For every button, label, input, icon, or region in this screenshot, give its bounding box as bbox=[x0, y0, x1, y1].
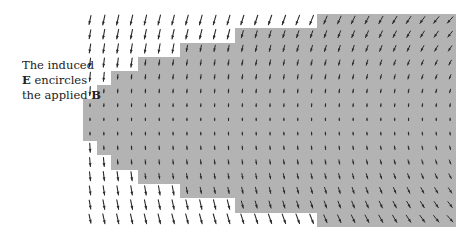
arrow-icon bbox=[268, 214, 271, 223]
arrow-icon bbox=[199, 29, 202, 38]
arrow-icon bbox=[200, 200, 203, 209]
arrow-icon bbox=[88, 30, 91, 39]
arrow-icon bbox=[227, 15, 230, 25]
arrow-icon bbox=[241, 15, 244, 25]
arrow-icon bbox=[130, 15, 133, 25]
arrow-icon bbox=[171, 15, 174, 25]
arrow-icon bbox=[102, 58, 105, 67]
arrow-icon bbox=[117, 200, 120, 210]
arrow-icon bbox=[158, 200, 161, 209]
arrow-icon bbox=[172, 186, 175, 195]
field-region-step bbox=[97, 85, 456, 99]
caption: The induced E encircles the applied B bbox=[22, 58, 86, 103]
arrow-icon bbox=[89, 186, 92, 195]
arrow-icon bbox=[199, 15, 202, 25]
applied-b-field-region bbox=[83, 14, 456, 227]
arrow-icon bbox=[186, 214, 189, 224]
arrow-icon bbox=[282, 15, 286, 24]
arrow-icon bbox=[116, 44, 119, 53]
arrow-icon bbox=[172, 200, 175, 209]
arrow-icon bbox=[199, 214, 202, 224]
arrow-icon bbox=[227, 214, 230, 224]
arrow-icon bbox=[213, 15, 216, 25]
arrow-icon bbox=[144, 29, 147, 39]
caption-line-3: the applied B bbox=[22, 88, 86, 103]
caption-line-2: E encircles bbox=[22, 73, 86, 88]
arrow-icon bbox=[88, 72, 91, 81]
arrow-icon bbox=[116, 15, 119, 25]
arrow-icon bbox=[116, 172, 119, 181]
arrow-icon bbox=[186, 200, 189, 209]
field-region-step bbox=[97, 141, 456, 155]
arrow-icon bbox=[89, 158, 92, 167]
arrow-icon bbox=[88, 44, 91, 53]
arrow-icon bbox=[89, 143, 92, 152]
arrow-icon bbox=[116, 29, 119, 39]
arrow-icon bbox=[185, 15, 188, 25]
arrow-icon bbox=[254, 15, 257, 25]
arrow-icon bbox=[282, 214, 286, 223]
arrow-icon bbox=[103, 158, 106, 167]
arrow-icon bbox=[144, 200, 147, 210]
arrow-icon bbox=[185, 29, 188, 38]
arrow-icon bbox=[268, 15, 272, 24]
arrow-icon bbox=[103, 200, 106, 210]
arrow-icon bbox=[241, 214, 244, 224]
arrow-icon bbox=[158, 214, 161, 224]
arrow-icon bbox=[102, 44, 105, 53]
arrow-icon bbox=[157, 15, 160, 25]
arrow-icon bbox=[103, 172, 106, 181]
arrow-icon bbox=[102, 72, 105, 81]
arrow-icon bbox=[130, 200, 133, 210]
arrow-icon bbox=[214, 200, 217, 209]
arrow-icon bbox=[144, 15, 147, 25]
b-symbol: B bbox=[91, 88, 101, 102]
arrow-icon bbox=[89, 214, 92, 223]
arrow-icon bbox=[310, 15, 314, 24]
arrow-icon bbox=[213, 214, 216, 224]
arrow-icon bbox=[89, 200, 92, 209]
field-region-step bbox=[180, 184, 456, 198]
arrow-icon bbox=[102, 29, 105, 39]
arrow-icon bbox=[116, 58, 119, 67]
field-region-step bbox=[180, 43, 456, 57]
arrow-icon bbox=[130, 172, 133, 181]
arrow-icon bbox=[144, 186, 147, 195]
arrow-icon bbox=[158, 29, 161, 39]
arrow-icon bbox=[144, 214, 147, 224]
vector-field-plot bbox=[0, 0, 476, 236]
arrow-icon bbox=[102, 15, 105, 25]
arrow-icon bbox=[227, 200, 230, 209]
arrow-icon bbox=[117, 214, 120, 224]
arrow-icon bbox=[158, 186, 161, 195]
caption-line-1: The induced bbox=[22, 58, 86, 73]
arrow-icon bbox=[227, 30, 230, 39]
arrow-icon bbox=[103, 214, 106, 224]
arrow-icon bbox=[296, 214, 300, 223]
arrow-icon bbox=[310, 214, 314, 223]
arrow-icon bbox=[130, 214, 133, 224]
arrow-icon bbox=[296, 15, 300, 24]
arrow-icon bbox=[88, 16, 91, 25]
arrow-icon bbox=[130, 29, 133, 39]
e-symbol: E bbox=[22, 73, 31, 87]
arrow-icon bbox=[255, 214, 258, 223]
arrow-icon bbox=[130, 44, 133, 53]
arrow-icon bbox=[130, 186, 133, 195]
arrow-icon bbox=[89, 172, 92, 181]
arrow-icon bbox=[171, 44, 174, 53]
arrow-icon bbox=[158, 44, 161, 53]
arrow-icon bbox=[103, 186, 106, 195]
arrow-icon bbox=[172, 214, 175, 224]
arrow-icon bbox=[130, 58, 133, 67]
arrow-icon bbox=[144, 44, 147, 53]
arrow-icon bbox=[117, 186, 120, 195]
arrow-icon bbox=[213, 29, 216, 38]
arrow-icon bbox=[171, 29, 174, 38]
